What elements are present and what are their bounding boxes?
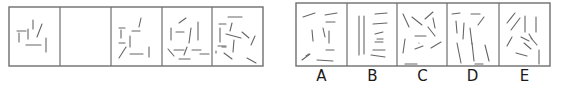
options-strip [296, 3, 550, 66]
option-cell-area[interactable] [296, 3, 347, 66]
sequence-cell-area [60, 7, 111, 66]
sequence-cell-area [111, 7, 162, 66]
sequence-cell-4 [162, 7, 212, 66]
option-cell-area[interactable] [499, 3, 550, 66]
option-label-c[interactable]: C [397, 68, 448, 84]
sequence-cell-3 [111, 7, 162, 66]
option-cell-5[interactable] [499, 3, 550, 66]
sequence-cell-area [162, 7, 212, 66]
option-label-a[interactable]: A [296, 68, 347, 84]
option-cell-3[interactable] [397, 3, 447, 66]
option-label-d[interactable]: D [447, 68, 498, 84]
option-cell-area[interactable] [397, 3, 447, 66]
option-cell-4[interactable] [447, 3, 499, 66]
sequence-cell-area [9, 7, 60, 66]
option-cell-1[interactable] [296, 3, 347, 66]
option-cell-2[interactable] [347, 3, 397, 66]
sequence-cell-5 [212, 7, 263, 66]
sequence-cell-1 [9, 7, 60, 66]
option-label-b[interactable]: B [347, 68, 398, 84]
sequence-cell-2 [60, 7, 111, 66]
sequence-strip [9, 7, 263, 66]
option-label-e[interactable]: E [499, 68, 550, 84]
option-cell-area[interactable] [347, 3, 397, 66]
